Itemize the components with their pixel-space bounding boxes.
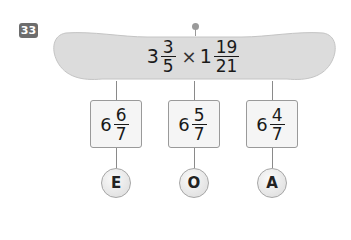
- term1-denominator: 5: [163, 57, 174, 75]
- connector-line: [272, 148, 273, 168]
- choice-whole: 6: [100, 114, 111, 135]
- choice-denominator: 7: [272, 125, 283, 143]
- answer-choice-box[interactable]: 6 5 7: [168, 100, 220, 148]
- choice-whole: 6: [178, 114, 189, 135]
- problem-number-badge: 33: [19, 23, 38, 38]
- multiplication-expression: 3 3 5 × 1 19 21: [52, 31, 337, 81]
- times-operator: ×: [182, 46, 197, 67]
- connector-line: [272, 81, 273, 100]
- choice-denominator: 7: [194, 125, 205, 143]
- answer-choice-box[interactable]: 6 4 7: [246, 100, 298, 148]
- term2-numerator: 19: [214, 38, 240, 57]
- term2-denominator: 21: [216, 57, 238, 75]
- choice-fraction: 6 7: [114, 106, 129, 143]
- term1-whole: 3: [147, 45, 159, 67]
- choice-fraction: 4 7: [270, 106, 285, 143]
- choice-whole: 6: [256, 114, 267, 135]
- term1-numerator: 3: [161, 38, 176, 57]
- choice-numerator: 4: [270, 106, 285, 125]
- connector-line: [116, 81, 117, 100]
- choice-numerator: 5: [192, 106, 207, 125]
- connector-line: [116, 148, 117, 168]
- letter-circle-a[interactable]: A: [257, 168, 287, 198]
- term2-whole: 1: [200, 45, 212, 67]
- term2-fraction: 19 21: [214, 38, 240, 75]
- term1-fraction: 3 5: [161, 38, 176, 75]
- letter-circle-e[interactable]: E: [101, 168, 131, 198]
- choice-denominator: 7: [116, 125, 127, 143]
- answer-choice-box[interactable]: 6 6 7: [90, 100, 142, 148]
- connector-line: [194, 81, 195, 100]
- expression-tray: 3 3 5 × 1 19 21: [52, 31, 337, 81]
- choice-numerator: 6: [114, 106, 129, 125]
- connector-line: [194, 148, 195, 168]
- letter-circle-o[interactable]: O: [179, 168, 209, 198]
- choice-fraction: 5 7: [192, 106, 207, 143]
